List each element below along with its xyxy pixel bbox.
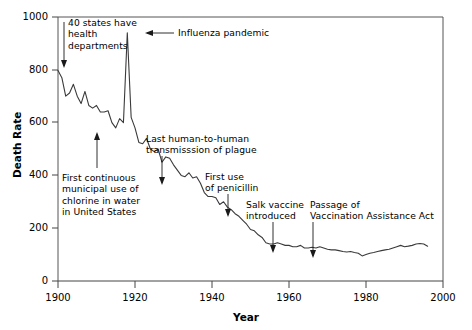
annotation-line: Salk vaccine <box>246 199 304 210</box>
arrowhead-states-health-departments <box>61 60 67 68</box>
x-axis-title: Year <box>233 311 259 323</box>
y-tick-label-800: 800 <box>14 64 48 75</box>
annotation-line: municipal use of <box>62 183 139 194</box>
annotation-line: Vaccination Assistance Act <box>310 210 434 221</box>
annotation-line: transmisssion of plague <box>146 144 257 155</box>
annotation-line: in United States <box>62 206 136 217</box>
annotation-influenza-pandemic: Influenza pandemic <box>178 27 269 38</box>
x-tick-label-1980: 1980 <box>341 292 391 303</box>
y-axis-ticks <box>52 17 58 281</box>
x-tick-label-1960: 1960 <box>264 292 314 303</box>
annotation-line: Passage of <box>310 199 360 210</box>
infectious-disease-death-rate-chart: 1000 800 600 400 200 0 1900 1920 1940 19… <box>0 0 472 330</box>
annotation-line: First continuous <box>62 172 136 183</box>
arrowhead-chlorine-water <box>94 132 100 140</box>
annotation-line: of penicillin <box>205 182 258 193</box>
x-axis-ticks <box>58 281 443 288</box>
annotation-line: First use <box>205 171 244 182</box>
y-tick-label-0: 0 <box>14 275 48 286</box>
annotation-line: introduced <box>246 210 296 221</box>
x-tick-label-1900: 1900 <box>33 292 83 303</box>
annotation-line: Last human-to-human <box>146 133 249 144</box>
annotation-states-health-departments: 40 states havehealthdepartments <box>68 17 137 51</box>
x-tick-label-2000: 2000 <box>418 292 468 303</box>
annotation-salk-vaccine: Salk vaccineintroduced <box>246 199 304 222</box>
arrowhead-salk-vaccine <box>270 245 276 253</box>
arrowhead-vaccination-assistance-act <box>310 250 316 258</box>
annotation-chlorine-water: First continuousmunicipal use ofchlorine… <box>62 172 140 218</box>
annotation-plague-transmission: Last human-to-humantransmisssion of plag… <box>146 133 257 156</box>
y-axis-title: Death Rate <box>11 112 23 178</box>
arrowhead-first-penicillin <box>225 209 231 217</box>
annotation-first-penicillin: First useof penicillin <box>205 171 258 194</box>
annotation-vaccination-assistance-act: Passage ofVaccination Assistance Act <box>310 199 434 222</box>
arrowhead-influenza-pandemic <box>145 30 153 36</box>
annotation-line: chlorine in water <box>62 195 140 206</box>
annotation-line: health <box>68 28 97 39</box>
x-tick-label-1920: 1920 <box>110 292 160 303</box>
x-tick-label-1940: 1940 <box>187 292 237 303</box>
annotation-line: 40 states have <box>68 17 137 28</box>
annotation-line: departments <box>68 40 128 51</box>
arrowhead-plague-transmission <box>159 177 165 185</box>
y-tick-label-1000: 1000 <box>14 11 48 22</box>
y-tick-label-200: 200 <box>14 222 48 233</box>
